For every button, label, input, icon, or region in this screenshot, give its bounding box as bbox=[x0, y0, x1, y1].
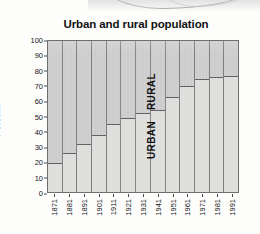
y-tick-50: 50 bbox=[35, 112, 43, 121]
bar-segment-urban-1921 bbox=[121, 118, 135, 192]
x-tick-mark-1931 bbox=[143, 194, 144, 197]
x-tick-mark-1891 bbox=[84, 194, 85, 197]
x-tick-label-1881: 1881 bbox=[65, 199, 74, 216]
x-tick-label-1921: 1921 bbox=[124, 199, 133, 216]
x-axis: 1871188118911901191119211931194119511961… bbox=[47, 194, 239, 234]
y-axis-title: Percent bbox=[0, 105, 2, 136]
scan-haze-artifact bbox=[88, 0, 260, 12]
x-tick-mark-1971 bbox=[202, 194, 203, 197]
bar-1911 bbox=[107, 41, 122, 192]
x-tick-1901: 1901 bbox=[91, 194, 106, 234]
x-tick-label-1931: 1931 bbox=[138, 199, 147, 216]
bar-segment-urban-1881 bbox=[63, 153, 77, 192]
x-tick-1891: 1891 bbox=[77, 194, 92, 234]
scan-curve-artifact-secondary bbox=[150, 0, 260, 7]
x-tick-1911: 1911 bbox=[106, 194, 121, 234]
x-tick-1871: 1871 bbox=[47, 194, 62, 234]
x-tick-label-1981: 1981 bbox=[212, 199, 221, 216]
scan-curve-artifact bbox=[95, 0, 260, 9]
bar-1921 bbox=[121, 41, 136, 192]
x-tick-mark-1981 bbox=[217, 194, 218, 197]
x-tick-mark-1941 bbox=[158, 194, 159, 197]
x-tick-mark-1901 bbox=[99, 194, 100, 197]
x-tick-label-1891: 1891 bbox=[79, 199, 88, 216]
x-tick-label-1991: 1991 bbox=[227, 199, 236, 216]
x-tick-1941: 1941 bbox=[150, 194, 165, 234]
x-tick-1981: 1981 bbox=[209, 194, 224, 234]
x-tick-1961: 1961 bbox=[180, 194, 195, 234]
x-tick-label-1911: 1911 bbox=[109, 199, 118, 215]
bar-series bbox=[48, 41, 238, 192]
bar-1881 bbox=[63, 41, 78, 192]
bar-1951 bbox=[166, 41, 181, 192]
x-tick-mark-1951 bbox=[173, 194, 174, 197]
x-tick-mark-1961 bbox=[187, 194, 188, 197]
y-tick-60: 60 bbox=[35, 97, 43, 106]
y-tick-20: 20 bbox=[35, 158, 43, 167]
bar-1991 bbox=[224, 41, 238, 192]
series-label-urban: URBAN bbox=[146, 121, 157, 159]
y-tick-90: 90 bbox=[35, 51, 43, 60]
x-tick-label-1961: 1961 bbox=[183, 199, 192, 216]
bar-segment-urban-1871 bbox=[48, 163, 62, 192]
plot-area: RURAL URBAN bbox=[47, 40, 239, 193]
series-label-rural: RURAL bbox=[146, 73, 157, 110]
y-tick-40: 40 bbox=[35, 127, 43, 136]
x-tick-label-1951: 1951 bbox=[168, 199, 177, 216]
y-tick-0: 0 bbox=[39, 189, 43, 198]
y-tick-100: 100 bbox=[30, 36, 43, 45]
x-tick-mark-1881 bbox=[69, 194, 70, 197]
chart-title: Urban and rural population bbox=[0, 18, 260, 30]
y-tick-10: 10 bbox=[35, 173, 43, 182]
bar-1941 bbox=[151, 41, 166, 192]
x-tick-mark-1871 bbox=[54, 194, 55, 197]
y-tick-70: 70 bbox=[35, 81, 43, 90]
bar-1871 bbox=[48, 41, 63, 192]
bar-1901 bbox=[92, 41, 107, 192]
x-tick-label-1971: 1971 bbox=[198, 199, 207, 216]
y-axis: Percent 0102030405060708090100 bbox=[0, 40, 47, 193]
x-tick-mark-1911 bbox=[113, 194, 114, 197]
bar-segment-urban-1951 bbox=[166, 97, 180, 192]
x-tick-label-1871: 1871 bbox=[50, 199, 59, 216]
y-tick-30: 30 bbox=[35, 143, 43, 152]
x-tick-mark-1991 bbox=[232, 194, 233, 197]
chart-screenshot: Urban and rural population Percent 01020… bbox=[0, 0, 260, 234]
x-tick-label-1941: 1941 bbox=[153, 199, 162, 216]
bar-1931 bbox=[136, 41, 151, 192]
bar-segment-urban-1971 bbox=[195, 79, 209, 192]
bar-1981 bbox=[210, 41, 225, 192]
x-tick-1971: 1971 bbox=[195, 194, 210, 234]
bar-1961 bbox=[180, 41, 195, 192]
bar-segment-urban-1911 bbox=[107, 124, 121, 192]
bar-1971 bbox=[195, 41, 210, 192]
bar-1891 bbox=[77, 41, 92, 192]
x-tick-label-1901: 1901 bbox=[94, 199, 103, 216]
plot-frame: RURAL URBAN bbox=[47, 40, 239, 193]
x-tick-1951: 1951 bbox=[165, 194, 180, 234]
x-tick-1991: 1991 bbox=[224, 194, 239, 234]
x-tick-1921: 1921 bbox=[121, 194, 136, 234]
x-tick-1931: 1931 bbox=[136, 194, 151, 234]
x-tick-1881: 1881 bbox=[62, 194, 77, 234]
bar-segment-urban-1891 bbox=[77, 144, 91, 192]
y-tick-80: 80 bbox=[35, 66, 43, 75]
bar-segment-urban-1961 bbox=[180, 86, 194, 192]
bar-segment-urban-1901 bbox=[92, 135, 106, 192]
bar-segment-urban-1981 bbox=[210, 77, 224, 192]
x-tick-mark-1921 bbox=[128, 194, 129, 197]
bar-segment-urban-1991 bbox=[224, 76, 238, 192]
